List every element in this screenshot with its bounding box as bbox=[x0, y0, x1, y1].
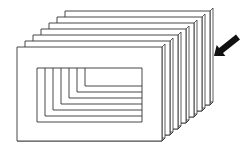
arrow-icon bbox=[214, 35, 240, 57]
frame-stack bbox=[17, 8, 213, 141]
laminated-frames-diagram bbox=[0, 0, 249, 151]
